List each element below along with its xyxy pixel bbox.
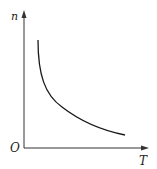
y-axis-label: n [11,10,18,23]
origin-label: O [10,141,20,155]
x-axis-label: T [139,154,148,168]
y-axis-arrow-icon [22,10,27,18]
x-axis-arrow-icon [141,146,149,151]
n-vs-t-diagram: n O T [0,0,157,169]
decreasing-curve [38,40,125,135]
